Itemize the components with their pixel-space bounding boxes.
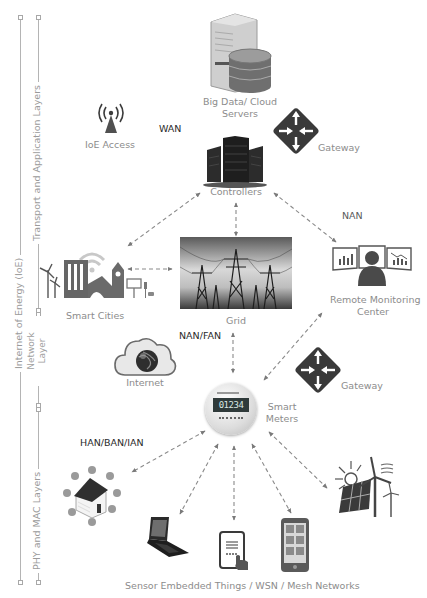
smart-home-icon [62,466,122,528]
network-label-han-ban-ian: HAN/BAN/IAN [80,437,144,448]
controllers-label: Controllers [205,186,267,198]
arrow-meter-renewables [269,432,327,488]
meter-brand-mark [217,392,239,394]
smart-meters-label-line2: Meters [262,413,302,425]
database-server-icon [205,12,275,92]
meter-buttons [219,417,243,422]
router-icon-bottom [293,345,343,395]
smart-meters-label: Smart Meters [262,401,302,425]
tablet-icon [218,530,250,572]
grid-label: Grid [222,315,250,327]
antenna-icon [93,100,129,134]
smart-meters-label-line1: Smart [262,401,302,413]
power-tower-icon [180,237,292,309]
meter-display: 01234 [213,398,249,412]
cloud-globe-icon [113,333,177,379]
arrow-meter-laptop [180,444,218,514]
gateway-bottom-label: Gateway [341,380,383,392]
remote-monitoring-label-line2: Center [330,306,416,318]
network-label-wan: WAN [159,123,181,134]
arrow-meter-phone [252,444,291,513]
smartphone-icon [280,517,310,573]
solar-wind-icon [333,455,399,521]
monitoring-operator-icon [331,244,413,286]
laptop-icon [145,515,191,559]
smart-cities-label: Smart Cities [66,310,124,322]
sensors-caption: Sensor Embedded Things / WSN / Mesh Netw… [125,580,345,592]
network-label-nan-fan: NAN/FAN [179,330,221,341]
remote-monitoring-label: Remote Monitoring Center [330,294,416,318]
ioe-access-label: IoE Access [80,139,140,151]
network-label-nan: NAN [342,210,363,221]
city-icon [38,250,154,298]
remote-monitoring-label-line1: Remote Monitoring [330,294,416,306]
arrow-controllers-remote [274,193,336,242]
gateway-top-label: Gateway [318,142,360,154]
smart-meter-icon: 01234 [205,383,257,435]
router-icon-top [271,106,321,156]
server-rack-icon [203,136,269,188]
internet-label: Internet [124,377,166,389]
